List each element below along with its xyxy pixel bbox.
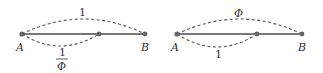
- top-arc: [22, 19, 145, 34]
- label-a: A: [170, 41, 179, 54]
- point-a: [174, 31, 179, 36]
- right-diagram: A B Φ 1: [170, 7, 306, 61]
- bottom-arc-label-denominator: Φ: [57, 60, 66, 73]
- bottom-arc-label: 1: [215, 48, 222, 61]
- point-division: [255, 32, 260, 37]
- point-b: [300, 32, 305, 37]
- label-b: B: [140, 41, 149, 54]
- bottom-arc: [22, 34, 99, 46]
- bottom-arc: [177, 34, 257, 47]
- top-arc-label: Φ: [234, 7, 243, 20]
- point-a: [19, 31, 24, 36]
- golden-ratio-diagrams: A B 1 1 Φ A B Φ 1: [0, 0, 323, 73]
- top-arc-label: 1: [79, 6, 86, 19]
- label-b: B: [297, 41, 306, 54]
- top-arc: [177, 19, 302, 34]
- left-diagram: A B 1 1 Φ: [15, 6, 149, 73]
- point-b: [143, 32, 148, 37]
- point-division: [97, 32, 102, 37]
- bottom-arc-label-numerator: 1: [59, 46, 66, 59]
- label-a: A: [15, 41, 24, 54]
